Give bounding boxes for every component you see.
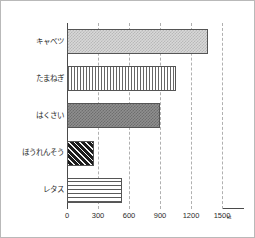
plot-area [67, 23, 222, 209]
bar-row [67, 135, 222, 172]
bar [67, 66, 176, 91]
bar [67, 29, 208, 54]
x-axis-tick-labels: kt 030060090012001500 [67, 211, 247, 225]
bar [67, 141, 94, 166]
bar [67, 103, 160, 128]
x-tick-label-0: 0 [65, 211, 69, 220]
x-tick-label-300: 300 [92, 211, 105, 220]
bar-row [67, 23, 222, 60]
y-axis-label-cabbage: キャベツ [2, 38, 64, 46]
gridline-1500 [222, 23, 223, 209]
bar-chart-figure: キャベツ たまねぎ はくさい ほうれんそう レタス kt 03006009001… [0, 0, 255, 238]
y-axis-label-chinese-cabbage: はくさい [2, 112, 64, 120]
x-tick-label-1200: 1200 [183, 211, 200, 220]
x-tick-label-1500: 1500 [214, 211, 231, 220]
y-axis-label-lettuce: レタス [2, 186, 64, 194]
y-axis-label-spinach: ほうれんそう [2, 149, 64, 157]
bar [67, 178, 122, 203]
x-axis-line-extension [222, 208, 244, 209]
x-tick-label-900: 900 [154, 211, 167, 220]
y-axis-category-labels: キャベツ たまねぎ はくさい ほうれんそう レタス [1, 23, 64, 209]
bar-row [67, 60, 222, 97]
bar-row [67, 172, 222, 209]
x-tick-label-600: 600 [123, 211, 136, 220]
bar-row [67, 97, 222, 134]
y-axis-label-onion: たまねぎ [2, 75, 64, 83]
